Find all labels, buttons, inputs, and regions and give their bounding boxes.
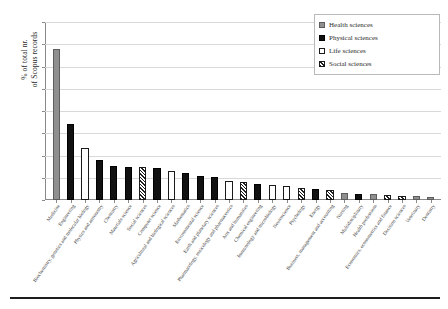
chart-legend: Health sciencesPhysical sciencesLife sci…	[314, 14, 440, 75]
bar	[254, 184, 261, 200]
bar-slot	[193, 22, 207, 200]
legend-item: Physical sciences	[319, 31, 435, 44]
bar-slot	[49, 22, 63, 200]
legend-label: Life sciences	[329, 47, 366, 55]
bar	[110, 166, 117, 200]
legend-item: Life sciences	[319, 44, 435, 57]
bar-slot	[121, 22, 135, 200]
legend-label: Physical sciences	[329, 34, 378, 42]
legend-swatch-social	[319, 61, 325, 67]
bar	[153, 168, 160, 200]
bar	[283, 186, 290, 200]
bar	[96, 160, 103, 200]
bar	[341, 193, 348, 200]
legend-item: Social sciences	[319, 57, 435, 70]
y-axis-title-line2: of Scopus records	[29, 0, 39, 135]
legend-swatch-health	[319, 22, 325, 28]
bar-slot	[135, 22, 149, 200]
bar	[240, 182, 247, 200]
bar-slot	[236, 22, 250, 200]
bar-slot	[92, 22, 106, 200]
legend-swatch-physical	[319, 35, 325, 41]
footer-divider	[10, 297, 440, 299]
bar-slot	[222, 22, 236, 200]
x-axis-tick-label: Energy	[307, 203, 320, 218]
bar-slot	[150, 22, 164, 200]
bar	[225, 181, 232, 200]
chart-figure: % of total nr. of Scopus records 0%5%10%…	[0, 0, 448, 309]
bar	[298, 188, 305, 200]
bar-slot	[78, 22, 92, 200]
legend-item: Health sciences	[319, 18, 435, 31]
y-axis-tick-mark	[42, 200, 45, 201]
bar	[67, 124, 74, 200]
bar	[81, 148, 88, 200]
bar	[312, 189, 319, 200]
bar	[197, 176, 204, 200]
bar	[139, 167, 146, 200]
y-axis-title-line1: % of total nr.	[20, 0, 30, 135]
legend-label: Health sciences	[329, 21, 373, 29]
bar	[125, 167, 132, 200]
bar	[182, 173, 189, 200]
bar-slot	[164, 22, 178, 200]
bar-slot	[251, 22, 265, 200]
bar-slot	[294, 22, 308, 200]
bar-slot	[207, 22, 221, 200]
bar-slot	[280, 22, 294, 200]
bar	[211, 177, 218, 200]
legend-label: Social sciences	[329, 60, 372, 68]
y-axis-title: % of total nr. of Scopus records	[20, 0, 39, 135]
bar	[168, 171, 175, 200]
bar-slot	[107, 22, 121, 200]
x-axis-tick-label: Biochemistry, genetics and molecular bio…	[31, 203, 90, 283]
x-axis-tick-label: Dentistry	[420, 203, 436, 222]
bar-slot	[265, 22, 279, 200]
bar	[326, 190, 333, 200]
legend-swatch-life	[319, 48, 325, 54]
x-axis-labels: MedicineEngineeringBiochemistry, genetic…	[45, 202, 441, 288]
bar-slot	[63, 22, 77, 200]
bar	[53, 49, 60, 200]
bar-slot	[179, 22, 193, 200]
x-axis-tick-label: Nursing	[335, 203, 349, 220]
bar	[269, 185, 276, 200]
